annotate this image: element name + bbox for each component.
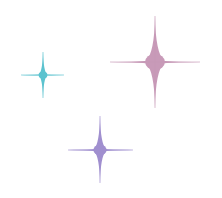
sparkles-illustration <box>0 0 222 198</box>
purple-sparkle-icon <box>68 116 133 183</box>
sparkles-canvas <box>0 0 222 198</box>
